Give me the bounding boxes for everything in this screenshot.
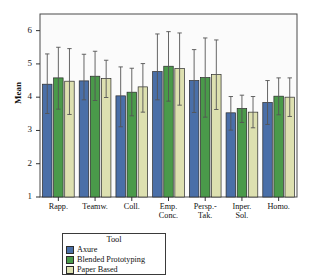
legend-swatch-icon bbox=[66, 256, 74, 264]
legend: Tool AxureBlended PrototypingPaper Based bbox=[62, 233, 166, 275]
legend-title: Tool bbox=[63, 234, 165, 245]
x-tick-label: Homo. bbox=[253, 202, 305, 211]
legend-item-label: Axure bbox=[77, 246, 97, 254]
legend-item[interactable]: Paper Based bbox=[63, 265, 165, 275]
legend-item[interactable]: Blended Prototyping bbox=[63, 255, 165, 265]
legend-item-label: Blended Prototyping bbox=[77, 256, 145, 264]
legend-swatch-icon bbox=[66, 266, 74, 274]
legend-swatch-icon bbox=[66, 246, 74, 254]
bar-chart: Mean 123456 Rapp.Teamw.Coll.Emp. Conc.Pe… bbox=[0, 0, 309, 279]
legend-item[interactable]: Axure bbox=[63, 245, 165, 255]
legend-item-label: Paper Based bbox=[77, 266, 118, 274]
